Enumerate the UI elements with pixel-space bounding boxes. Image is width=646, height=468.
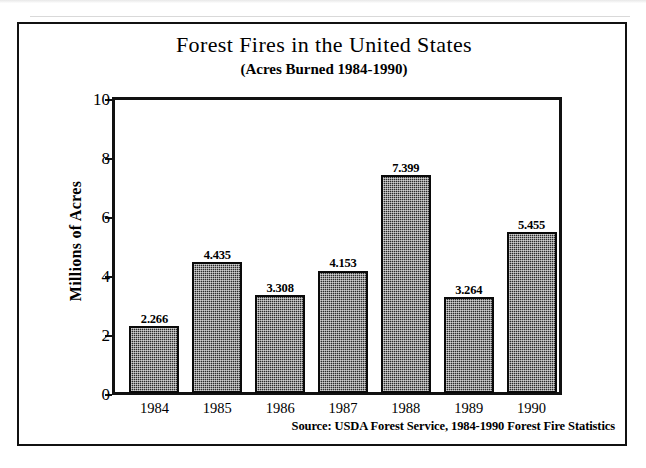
scan-artifact-band (0, 0, 646, 3)
chart-title: Forest Fires in the United States (19, 32, 629, 58)
bar-1986 (255, 295, 305, 393)
bar-1984 (129, 326, 179, 393)
y-axis-tick-label: 2 (70, 327, 110, 344)
plot-right-rule (559, 97, 562, 395)
y-axis-title: Millions of Acres (67, 156, 85, 326)
figure-frame: Forest Fires in the United States (Acres… (17, 22, 627, 446)
source-note: Source: USDA Forest Service, 1984-1990 F… (19, 419, 615, 434)
y-axis-line (112, 100, 115, 395)
bar-value-label: 3.264 (432, 284, 506, 297)
bar-1988 (381, 175, 431, 393)
y-axis-tick-label: 8 (70, 150, 110, 167)
bar-1989 (444, 297, 494, 393)
bar-value-label: 5.455 (495, 219, 569, 232)
plot-area: 0246810 2.2664.4353.3084.1537.3993.2645.… (112, 100, 562, 395)
y-axis-tick-label: 4 (70, 268, 110, 285)
y-axis-tick-label: 10 (70, 91, 110, 108)
bar-value-label: 7.399 (369, 162, 443, 175)
chart-subtitle: (Acres Burned 1984-1990) (19, 60, 629, 78)
scan-artifact-line (30, 16, 630, 17)
bar-1987 (318, 271, 368, 394)
y-axis-tick-label: 0 (70, 386, 110, 403)
bar-value-label: 3.308 (243, 282, 317, 295)
y-axis-tick-label: 6 (70, 209, 110, 226)
bar-1990 (507, 232, 557, 393)
bar-value-label: 4.153 (306, 257, 380, 270)
bar-value-label: 4.435 (180, 249, 254, 262)
chart-page: Forest Fires in the United States (Acres… (0, 0, 646, 468)
bar-value-label: 2.266 (117, 313, 191, 326)
plot-top-rule (112, 97, 562, 100)
bar-1985 (192, 262, 242, 393)
x-axis-label-1990: 1990 (492, 400, 572, 416)
